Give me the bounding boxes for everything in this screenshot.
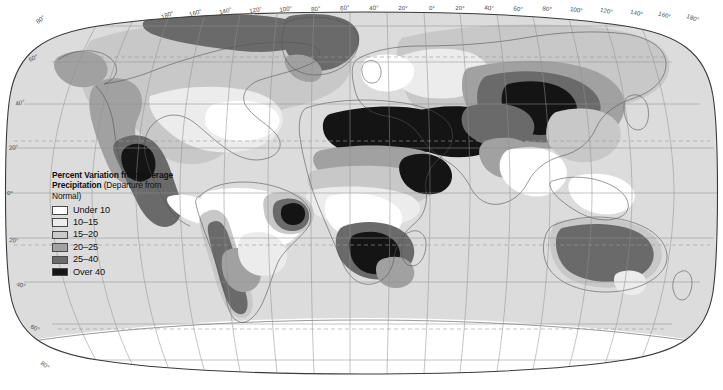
legend-swatch-20-25 (52, 243, 68, 252)
band-under-10-eastern-us (205, 101, 280, 141)
lon-label-60w: 60° (340, 4, 350, 12)
legend-title: Percent Variation from Average Precipita… (52, 170, 202, 201)
legend-swatch-10-15 (52, 218, 68, 227)
legend-item-25-40: 25–40 (52, 254, 202, 265)
lon-label-80e: 80° (542, 4, 553, 12)
map-page: 180° 160° 140° 120° 100° 80° 60° 40° 20°… (0, 0, 723, 390)
legend-title-line2-bold: Precipitation (52, 180, 101, 190)
legend-label-over-40: Over 40 (73, 267, 105, 278)
lat-label-20n: 20° (8, 143, 19, 151)
legend-title-line1: Percent Variation from Average (52, 170, 173, 180)
legend-rows: Under 10 10–15 15–20 20–25 25–40 Over 40 (52, 205, 202, 278)
legend-item-15-20: 15–20 (52, 230, 202, 241)
legend-swatch-15-20 (52, 231, 68, 240)
legend-label-under-10: Under 10 (73, 205, 110, 216)
legend-item-10-15: 10–15 (52, 217, 202, 228)
lon-label-40w: 40° (369, 4, 379, 12)
lat-label-0: 0° (7, 189, 13, 196)
legend-title-line3: Normal) (52, 191, 81, 201)
lon-label-80w: 80° (311, 4, 322, 12)
lat-label-20s: 20° (9, 236, 20, 244)
legend-swatch-over-40 (52, 268, 68, 277)
legend-item-20-25: 20–25 (52, 242, 202, 253)
legend-swatch-under-10 (52, 206, 68, 215)
lon-label-60e: 60° (513, 5, 523, 13)
legend-label-20-25: 20–25 (73, 242, 98, 253)
legend-item-under-10: Under 10 (52, 205, 202, 216)
lon-label-40e: 40° (484, 4, 494, 12)
lon-label-20w: 20° (398, 4, 408, 11)
legend-label-25-40: 25–40 (73, 254, 98, 265)
map-legend: Percent Variation from Average Precipita… (52, 170, 202, 279)
legend-swatch-25-40 (52, 256, 68, 265)
legend-title-line2-rest: (Departure from (101, 180, 161, 190)
legend-item-over-40: Over 40 (52, 267, 202, 278)
lon-label-0: 0° (429, 4, 435, 11)
legend-label-15-20: 15–20 (73, 229, 98, 240)
lon-label-20e: 20° (455, 4, 465, 11)
legend-label-10-15: 10–15 (73, 217, 98, 228)
